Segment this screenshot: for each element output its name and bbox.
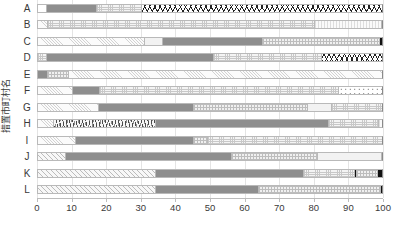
- bar-segment[interactable]: [381, 152, 383, 161]
- x-tick-label: 40: [170, 202, 181, 213]
- bar-segment[interactable]: [314, 20, 381, 29]
- bar-segment[interactable]: [303, 169, 353, 178]
- bar-segment[interactable]: [37, 185, 155, 194]
- bar-segment[interactable]: [37, 53, 46, 62]
- y-axis-title: 措置市町村名: [0, 0, 12, 46]
- bar-segment[interactable]: [68, 70, 383, 79]
- x-tick-label: 90: [343, 202, 354, 213]
- stacked-bar-chart: 措置市町村名 ABCDEFGHIJKL 01020304050607080901…: [0, 0, 396, 229]
- bar-segment[interactable]: [356, 169, 377, 178]
- bar-segment[interactable]: [262, 37, 379, 46]
- bar-segment[interactable]: [213, 53, 320, 62]
- bar-segment[interactable]: [317, 152, 381, 161]
- bar-segment[interactable]: [37, 136, 75, 145]
- x-tick-label: 50: [205, 202, 216, 213]
- bar-segment[interactable]: [37, 37, 144, 46]
- bar-segment[interactable]: [47, 20, 313, 29]
- bar-segment[interactable]: [37, 119, 53, 128]
- plot-area: [37, 0, 383, 198]
- category-label-d: D: [20, 53, 34, 63]
- x-tick-label: 70: [274, 202, 285, 213]
- bar-segment[interactable]: [65, 152, 231, 161]
- category-label-e: E: [20, 70, 34, 80]
- bar-row[interactable]: [37, 70, 383, 79]
- bar-row[interactable]: [37, 119, 383, 128]
- x-tick-label: 100: [375, 202, 391, 213]
- bar-segment[interactable]: [72, 86, 100, 95]
- bar-segment[interactable]: [193, 103, 307, 112]
- bar-segment[interactable]: [37, 152, 65, 161]
- x-tick-label: 0: [34, 202, 39, 213]
- x-tick-label: 30: [136, 202, 147, 213]
- bar-segment[interactable]: [155, 185, 259, 194]
- bar-row[interactable]: [37, 103, 383, 112]
- bar-segment[interactable]: [231, 152, 318, 161]
- bar-segment[interactable]: [380, 185, 383, 194]
- bar-segment[interactable]: [96, 4, 141, 13]
- bar-segment[interactable]: [155, 169, 304, 178]
- bar-segment[interactable]: [37, 70, 47, 79]
- bar-segment[interactable]: [307, 103, 331, 112]
- bar-row[interactable]: [37, 86, 383, 95]
- bar-row[interactable]: [37, 185, 383, 194]
- x-tick-label: 80: [309, 202, 320, 213]
- bar-row[interactable]: [37, 4, 383, 13]
- bar-segment[interactable]: [258, 185, 379, 194]
- bar-segment[interactable]: [377, 169, 383, 178]
- bar-segment[interactable]: [46, 53, 214, 62]
- bar-segment[interactable]: [162, 37, 262, 46]
- bar-row[interactable]: [37, 169, 383, 178]
- category-label-c: C: [20, 37, 34, 47]
- x-tick-label: 60: [239, 202, 250, 213]
- bar-row[interactable]: [37, 53, 383, 62]
- bar-segment[interactable]: [37, 20, 47, 29]
- bar-rows: [37, 0, 383, 198]
- bar-segment[interactable]: [46, 4, 96, 13]
- bar-segment[interactable]: [144, 37, 161, 46]
- bar-segment[interactable]: [37, 86, 72, 95]
- bar-segment[interactable]: [338, 86, 383, 95]
- bar-segment[interactable]: [155, 119, 328, 128]
- category-label-f: F: [20, 86, 34, 96]
- bar-row[interactable]: [37, 20, 383, 29]
- bar-segment[interactable]: [37, 103, 98, 112]
- bar-segment[interactable]: [141, 4, 383, 13]
- bar-segment[interactable]: [378, 119, 383, 128]
- gridline: [383, 0, 384, 198]
- category-label-i: I: [20, 136, 34, 146]
- category-label-l: L: [20, 185, 34, 195]
- x-tick-label: 20: [101, 202, 112, 213]
- bar-segment[interactable]: [321, 53, 383, 62]
- bar-segment[interactable]: [37, 169, 155, 178]
- bar-segment[interactable]: [98, 103, 193, 112]
- bar-segment[interactable]: [381, 20, 383, 29]
- category-labels: ABCDEFGHIJKL: [20, 0, 34, 198]
- bar-row[interactable]: [37, 37, 383, 46]
- bar-segment[interactable]: [193, 136, 207, 145]
- category-label-k: K: [20, 169, 34, 179]
- category-label-a: A: [20, 4, 34, 14]
- category-label-b: B: [20, 20, 34, 30]
- bar-segment[interactable]: [328, 119, 378, 128]
- x-axis-ticks: 0102030405060708090100: [37, 199, 383, 219]
- bar-segment[interactable]: [53, 119, 155, 128]
- x-tick-label: 10: [66, 202, 77, 213]
- bar-segment[interactable]: [75, 136, 193, 145]
- bar-segment[interactable]: [99, 86, 338, 95]
- bar-row[interactable]: [37, 152, 383, 161]
- bar-segment[interactable]: [47, 70, 68, 79]
- bar-segment[interactable]: [379, 37, 383, 46]
- category-label-j: J: [20, 152, 34, 162]
- category-label-g: G: [20, 103, 34, 113]
- bar-row[interactable]: [37, 136, 383, 145]
- bar-segment[interactable]: [37, 4, 46, 13]
- y-axis-title-label: 措置市町村名: [0, 46, 12, 166]
- bar-segment[interactable]: [331, 103, 383, 112]
- bar-segment[interactable]: [207, 136, 383, 145]
- category-label-h: H: [20, 119, 34, 129]
